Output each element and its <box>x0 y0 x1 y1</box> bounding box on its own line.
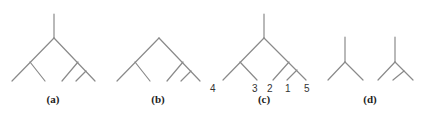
leaf-label-5: 5 <box>304 83 310 94</box>
caption-a: (a) <box>47 93 60 105</box>
edge <box>159 38 200 81</box>
tree-c: 4 3 2 1 5 <box>210 14 310 94</box>
caption-b: (b) <box>151 93 164 105</box>
edge <box>287 70 297 80</box>
edge <box>273 62 289 80</box>
edge <box>135 62 150 81</box>
edge <box>378 62 395 80</box>
edge <box>117 38 159 81</box>
leaf-label-1: 1 <box>285 83 291 94</box>
edge <box>12 38 54 81</box>
caption-c: (c) <box>258 93 270 105</box>
tree-b <box>117 38 200 81</box>
tree-figure: 4 3 2 1 5 <box>0 0 422 122</box>
edge <box>167 62 183 81</box>
edge <box>30 62 45 81</box>
tree-d <box>328 37 413 80</box>
edge <box>345 62 363 80</box>
edge <box>76 71 86 81</box>
leaf-label-4: 4 <box>210 83 216 94</box>
edge <box>393 71 404 80</box>
tree-a <box>12 14 95 81</box>
edge <box>181 71 191 81</box>
edge <box>54 38 95 81</box>
edge <box>328 62 345 80</box>
edge <box>264 38 306 80</box>
caption-d: (d) <box>363 93 376 105</box>
edge <box>62 62 78 81</box>
edge <box>223 38 264 80</box>
edge <box>240 62 257 80</box>
